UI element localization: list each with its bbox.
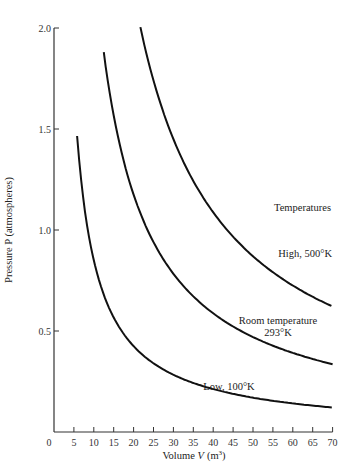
- y-tick-label: 1.0: [39, 225, 52, 236]
- x-tick-label: 40: [208, 437, 218, 448]
- y-tick-label: 2.0: [39, 23, 52, 34]
- pv-chart: 05101520253035404550556065700.51.01.52.0…: [0, 0, 358, 475]
- curve-high-500k: [140, 27, 331, 306]
- label-low: Low, 100°K: [203, 381, 255, 392]
- x-tick-label: 15: [109, 437, 119, 448]
- x-tick-label: 25: [149, 437, 159, 448]
- x-axis-title: Volume V(m3): [162, 449, 226, 462]
- x-tick-label: 55: [268, 437, 278, 448]
- x-tick-label: 35: [188, 437, 198, 448]
- label-room-line1: Room temperature: [239, 315, 318, 326]
- label-high: High, 500°K: [278, 248, 332, 259]
- x-tick-label: 60: [288, 437, 298, 448]
- x-tick-label: 5: [71, 437, 76, 448]
- y-tick-label: 1.5: [39, 124, 52, 135]
- x-tick-label: 0: [47, 437, 52, 448]
- isotherm-curves: [77, 27, 333, 407]
- x-tick-label: 50: [248, 437, 258, 448]
- x-tick-label: 30: [168, 437, 178, 448]
- x-tick-label: 10: [89, 437, 99, 448]
- curve-low-100k: [77, 136, 332, 407]
- label-room-line2: 293°K: [264, 327, 292, 338]
- x-tick-label: 65: [308, 437, 318, 448]
- legend-title: Temperatures: [274, 202, 331, 213]
- x-tick-label: 45: [228, 437, 238, 448]
- y-tick-label: 0.5: [39, 326, 52, 337]
- x-tick-label: 20: [129, 437, 139, 448]
- axes: 05101520253035404550556065700.51.01.52.0: [39, 23, 338, 449]
- y-axis-title: Pressure P (atmospheres): [3, 177, 15, 283]
- x-tick-label: 70: [328, 437, 338, 448]
